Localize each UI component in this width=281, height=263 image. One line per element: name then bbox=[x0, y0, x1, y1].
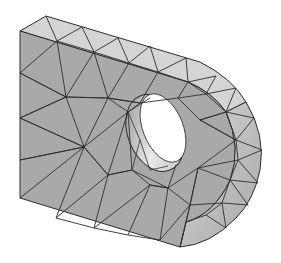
mesh-svg bbox=[0, 0, 281, 263]
mesh-figure bbox=[0, 0, 281, 263]
